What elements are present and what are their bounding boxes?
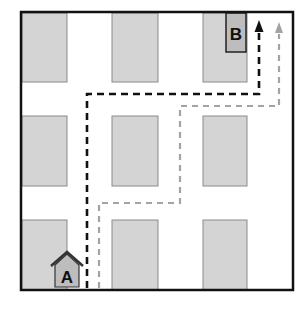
block-r2-c3 bbox=[203, 116, 247, 186]
block-r3-c3 bbox=[203, 220, 247, 290]
block-r2-c2 bbox=[112, 116, 158, 186]
primary-route-arrow-icon bbox=[255, 20, 264, 32]
block-r2-c1 bbox=[22, 116, 67, 186]
city-blocks bbox=[22, 13, 247, 290]
start-marker-label: A bbox=[61, 268, 73, 287]
end-marker-b: B bbox=[226, 13, 246, 52]
block-r3-c2 bbox=[112, 220, 158, 290]
end-marker-label: B bbox=[230, 25, 242, 44]
block-r1-c1 bbox=[22, 13, 67, 82]
alternate-route-arrow-icon bbox=[275, 22, 283, 33]
block-r1-c2 bbox=[112, 13, 158, 82]
route-map: B A bbox=[0, 0, 308, 309]
